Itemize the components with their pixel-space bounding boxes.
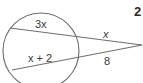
upper-internal-segment-label: 3x [35, 18, 47, 30]
upper-secant-line [10, 28, 142, 45]
problem-number: 2 [134, 4, 141, 19]
lower-internal-segment-label: x + 2 [28, 52, 52, 64]
upper-external-segment-label: x [102, 28, 109, 40]
lower-external-segment-label: 8 [104, 55, 110, 67]
secant-diagram: 3x x x + 2 8 2 [0, 0, 143, 83]
